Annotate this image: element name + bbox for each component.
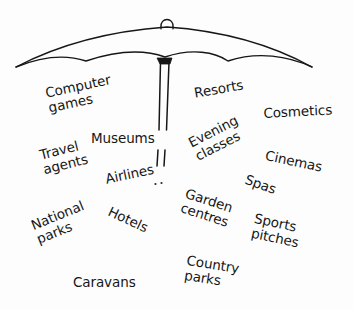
pole-upper-segment (159, 62, 169, 130)
label-line: Hotels (106, 204, 151, 236)
label-cosmetics: Cosmetics (263, 102, 332, 121)
pole-middle-segment (157, 150, 165, 166)
label-line: Cinemas (264, 148, 324, 175)
label-line: Caravans (73, 275, 136, 290)
label-cinemas: Cinemas (264, 148, 324, 175)
label-line: Spas (243, 172, 278, 197)
pole-fade-dot-right (160, 182, 162, 184)
label-country-parks: Countryparks (183, 253, 240, 291)
umbrella-diagram: Computergames Resorts Cosmetics Museums … (0, 0, 353, 310)
label-resorts: Resorts (193, 77, 244, 100)
finial-loop-icon (161, 20, 173, 28)
label-airlines: Airlines (104, 162, 155, 187)
finial-base (161, 27, 173, 29)
label-travel-agents: Travelagents (38, 137, 89, 177)
label-hotels: Hotels (106, 204, 151, 236)
label-caravans: Caravans (73, 275, 136, 290)
label-line: Museums (91, 131, 155, 146)
label-garden-centres: Gardencentres (179, 186, 235, 230)
label-line: Cosmetics (263, 102, 332, 121)
shaft-collar (157, 58, 172, 64)
canopy-top-edge (16, 27, 312, 67)
label-sports-pitches: Sportspitches (250, 211, 303, 250)
label-line: Resorts (193, 77, 244, 100)
label-spas: Spas (243, 172, 278, 197)
label-line: Airlines (104, 162, 155, 187)
pole-fade-dot-left (154, 183, 156, 185)
label-national-parks: Nationalparks (29, 198, 92, 246)
label-museums: Museums (91, 131, 155, 146)
canopy-scalloped-edge (16, 52, 312, 67)
label-computer-games: Computergames (44, 72, 115, 115)
label-evening-classes: Eveningclasses (186, 113, 247, 164)
